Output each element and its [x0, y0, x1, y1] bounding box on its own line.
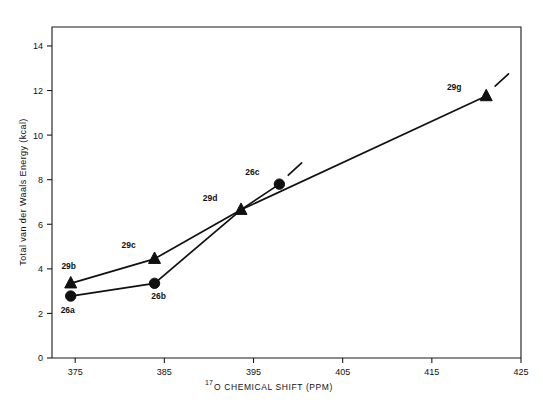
- point-label-26b: 26b: [151, 291, 166, 301]
- y-tick-label: 4: [38, 264, 43, 274]
- branch-to-29g: [241, 96, 486, 210]
- tail-29g: [495, 74, 508, 86]
- x-tick-label: 395: [246, 367, 261, 377]
- chart-figure: 0246810121437538539540541542517O CHEMICA…: [0, 0, 543, 412]
- point-label-29d: 29d: [203, 193, 218, 203]
- data-point-29g[interactable]: [480, 89, 492, 100]
- point-label-29c: 29c: [121, 240, 135, 250]
- plot-frame: [52, 27, 521, 358]
- y-tick-label: 2: [38, 309, 43, 319]
- y-axis-title: Total van der Waals Energy (kcal): [18, 118, 28, 265]
- y-tick-label: 10: [33, 131, 43, 141]
- y-tick-label: 14: [33, 41, 43, 51]
- x-tick-label: 405: [335, 367, 350, 377]
- y-tick-label: 6: [38, 220, 43, 230]
- x-axis-title-text: O CHEMICAL SHIFT (PPM): [214, 382, 333, 392]
- x-tick-label: 375: [68, 367, 83, 377]
- point-label-26a: 26a: [61, 305, 75, 315]
- tail-26c: [288, 163, 301, 175]
- branch-to-26c: [241, 184, 279, 210]
- data-point-26c[interactable]: [274, 179, 284, 189]
- y-tick-label: 12: [33, 86, 43, 96]
- triangle-path: [71, 259, 155, 284]
- x-axis-title: 17O CHEMICAL SHIFT (PPM): [205, 379, 333, 392]
- data-point-26a[interactable]: [66, 291, 76, 301]
- chart-canvas: 0246810121437538539540541542517O CHEMICA…: [0, 0, 543, 412]
- point-label-29g: 29g: [447, 82, 462, 92]
- triangle-path: [155, 210, 241, 259]
- x-tick-label: 425: [513, 367, 528, 377]
- y-tick-label: 8: [38, 175, 43, 185]
- y-tick-label: 0: [38, 353, 43, 363]
- data-point-26b[interactable]: [149, 278, 159, 288]
- circle-path: [71, 283, 155, 296]
- x-tick-label: 415: [424, 367, 439, 377]
- point-label-29b: 29b: [61, 261, 76, 271]
- circle-path: [155, 210, 241, 284]
- data-point-29c[interactable]: [149, 252, 161, 263]
- x-axis-title-superscript: 17: [205, 379, 213, 386]
- point-label-26c: 26c: [245, 167, 259, 177]
- x-tick-label: 385: [157, 367, 172, 377]
